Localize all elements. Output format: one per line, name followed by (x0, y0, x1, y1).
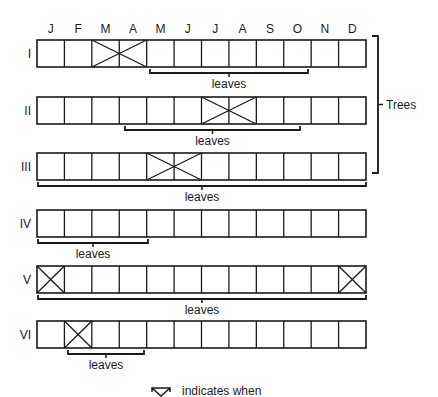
month-label: J (185, 22, 191, 36)
leaves-bracket (38, 295, 366, 299)
month-label: M (101, 22, 111, 36)
month-label: N (321, 22, 330, 36)
tree-label: V (23, 273, 31, 287)
leaves-label: leaves (185, 303, 220, 317)
tree-label: III (21, 160, 31, 174)
tree-row: VIleaves (20, 321, 366, 372)
month-header: JFMAMJJASOND (48, 22, 357, 36)
tree-label: II (24, 104, 31, 118)
legend-text: indicates when (182, 384, 261, 397)
month-label: D (348, 22, 357, 36)
month-label: J (48, 22, 54, 36)
month-label: F (74, 22, 81, 36)
month-label: J (212, 22, 218, 36)
tree-label: I (28, 47, 31, 61)
flowering-cross-icon (152, 388, 170, 396)
leaves-bracket (38, 239, 148, 243)
tree-row: IIleaves (24, 97, 366, 148)
leaves-label: leaves (185, 190, 220, 204)
leaves-label: leaves (195, 134, 230, 148)
legend: indicates when (152, 384, 261, 397)
trees-bracket: Trees (372, 36, 416, 173)
leaves-bracket (125, 126, 300, 130)
trees-label: Trees (386, 98, 416, 112)
leaves-label: leaves (76, 247, 111, 261)
month-label: O (293, 22, 302, 36)
leaves-bracket (68, 350, 144, 354)
leaves-label: leaves (89, 358, 124, 372)
leaves-label: leaves (212, 77, 247, 91)
month-label: S (266, 22, 274, 36)
tree-label: VI (20, 328, 31, 342)
tree-label: IV (20, 217, 31, 231)
month-label: M (155, 22, 165, 36)
month-label: A (129, 22, 137, 36)
tree-rows: IleavesIIleavesIIIleavesIVleavesVleavesV… (20, 40, 366, 372)
leaves-bracket (150, 69, 308, 73)
flowering-leaves-diagram: JFMAMJJASOND IleavesIIleavesIIIleavesIVl… (0, 0, 438, 397)
month-label: A (239, 22, 247, 36)
tree-row: Ileaves (28, 40, 366, 91)
leaves-bracket (38, 182, 366, 186)
tree-row: IVleaves (20, 210, 366, 261)
tree-row: Vleaves (23, 266, 366, 317)
tree-row: IIIleaves (21, 153, 366, 204)
